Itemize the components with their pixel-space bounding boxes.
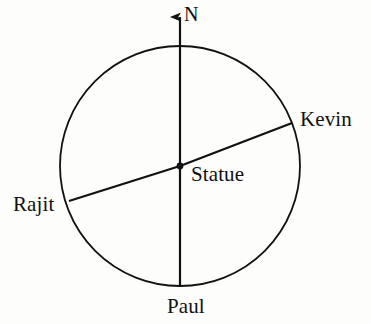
statue-center-dot <box>177 163 184 170</box>
rajit-radius-line <box>69 166 180 201</box>
diagram-canvas: N Kevin Statue Rajit Paul <box>0 0 371 324</box>
kevin-radius-line <box>180 123 292 166</box>
kevin-label: Kevin <box>300 109 352 130</box>
paul-label: Paul <box>167 296 205 317</box>
rajit-label: Rajit <box>13 194 54 215</box>
compass-circle-diagram <box>0 0 371 324</box>
north-label: N <box>184 4 199 24</box>
statue-label: Statue <box>191 164 244 185</box>
